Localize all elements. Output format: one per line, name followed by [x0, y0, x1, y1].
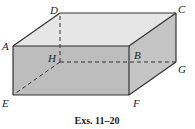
rectangular-box-diagram: A B C D E F G H Exs. 11–20: [0, 0, 195, 129]
front-face: [13, 46, 129, 95]
vertex-label-C: C: [178, 3, 186, 15]
vertex-label-H: H: [47, 52, 57, 64]
vertex-label-D: D: [49, 4, 58, 16]
vertex-label-E: E: [1, 97, 9, 109]
figure-caption: Exs. 11–20: [74, 115, 119, 126]
vertex-label-A: A: [1, 40, 9, 52]
vertex-label-B: B: [134, 49, 141, 61]
vertex-label-F: F: [132, 97, 140, 109]
vertex-label-G: G: [178, 63, 186, 75]
